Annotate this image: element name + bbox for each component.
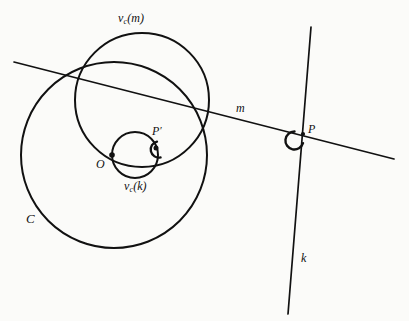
label-vc-k: vc(k): [124, 180, 147, 194]
vertex-p-prime-dot: [154, 146, 159, 151]
geometry-figure: vc(m) vc(k) C O P′ P m k: [0, 0, 409, 321]
vertex-p-dot: [301, 132, 305, 136]
prime-mark-icon: ′: [159, 124, 161, 136]
label-vc-m-arg: m: [131, 11, 140, 25]
vertex-o-dot: [109, 152, 115, 158]
label-line-m: m: [236, 102, 245, 114]
label-point-p: P: [308, 123, 315, 135]
label-vc-m: vc(m): [118, 12, 144, 26]
figure-canvas: [0, 0, 409, 321]
figure-background: [0, 0, 409, 321]
label-vc-k-close-paren: ): [143, 179, 147, 193]
label-point-p-prime: P′: [152, 125, 162, 137]
label-line-k: k: [301, 252, 306, 264]
label-vc-m-close-paren: ): [140, 11, 144, 25]
label-center-o: O: [96, 158, 105, 170]
label-circle-c: C: [26, 212, 35, 225]
